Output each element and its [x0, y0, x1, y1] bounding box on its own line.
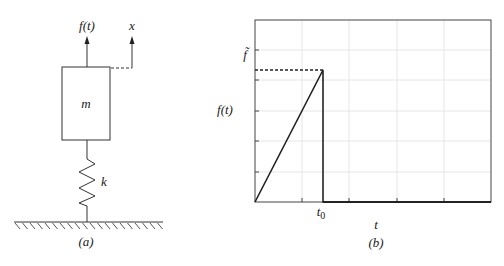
panel-b-caption: (b) [368, 235, 383, 250]
displacement-arrowhead-icon [130, 36, 135, 44]
panel-a-caption: (a) [78, 234, 93, 249]
grid [255, 20, 491, 202]
t0-subscript: 0 [320, 210, 325, 221]
x-axis-label: t [374, 217, 378, 232]
peak-label: f̃ [243, 47, 250, 62]
panel-a: m f(t) x k [14, 18, 163, 249]
y-axis-label: f(t) [217, 102, 233, 117]
force-arrowhead-icon [85, 36, 90, 44]
force-curve [255, 70, 491, 202]
figure-canvas: m f(t) x k [0, 0, 504, 266]
spring-icon [79, 140, 95, 222]
t0-label: t0 [317, 204, 326, 221]
displacement-label: x [128, 18, 135, 33]
panel-b: f̃ f(t) t0 t (b) [217, 20, 491, 250]
force-label: f(t) [79, 18, 95, 33]
mass-label: m [81, 96, 90, 111]
spring-label: k [101, 174, 107, 189]
ground-hatching-icon [15, 223, 163, 229]
